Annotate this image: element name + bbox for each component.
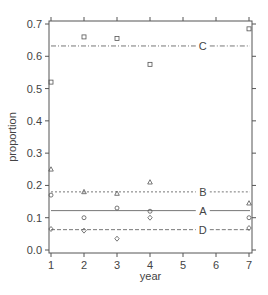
y-tick-label: 0.4 xyxy=(27,115,42,127)
square-marker xyxy=(82,35,86,39)
series-label-C: C xyxy=(199,40,207,52)
y-tick-label: 0.1 xyxy=(27,212,42,224)
y-tick-label: 0.7 xyxy=(27,18,42,30)
y-tick-label: 0.2 xyxy=(27,179,42,191)
y-tick-label: 0.5 xyxy=(27,83,42,95)
y-tick-label: 0.0 xyxy=(27,244,42,256)
diamond-marker xyxy=(82,228,86,233)
series-label-A: A xyxy=(199,205,207,217)
square-marker xyxy=(49,80,53,84)
circle-marker xyxy=(247,216,251,220)
y-axis-label: proportion xyxy=(6,112,18,162)
chart: 0.00.10.20.30.40.50.60.71234567yearpropo… xyxy=(0,0,268,295)
diamond-marker xyxy=(115,236,119,241)
triangle-marker xyxy=(148,180,153,184)
plot-frame xyxy=(49,21,252,253)
x-tick-label: 7 xyxy=(246,259,252,271)
circle-marker xyxy=(49,193,53,197)
square-marker xyxy=(247,27,251,31)
series-label-D: D xyxy=(199,224,207,236)
y-tick-label: 0.6 xyxy=(27,50,42,62)
x-tick-label: 3 xyxy=(114,259,120,271)
x-axis-label: year xyxy=(140,270,162,282)
circle-marker xyxy=(82,216,86,220)
circle-marker xyxy=(148,209,152,213)
square-marker xyxy=(148,62,152,66)
x-tick-label: 6 xyxy=(213,259,219,271)
circle-marker xyxy=(115,206,119,210)
series-label-B: B xyxy=(199,186,206,198)
square-marker xyxy=(115,37,119,41)
y-tick-label: 0.3 xyxy=(27,147,42,159)
x-tick-label: 1 xyxy=(48,259,54,271)
x-tick-label: 2 xyxy=(81,259,87,271)
scatter-plot: 0.00.10.20.30.40.50.60.71234567yearpropo… xyxy=(0,0,268,295)
x-tick-label: 5 xyxy=(180,259,186,271)
diamond-marker xyxy=(148,215,152,220)
triangle-marker xyxy=(247,201,252,205)
